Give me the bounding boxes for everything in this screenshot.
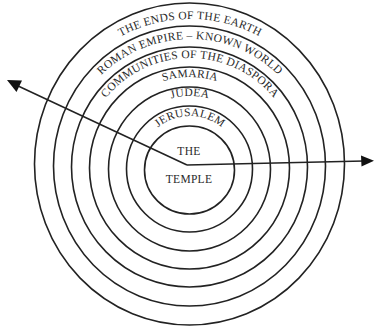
center-label-the: THE: [177, 145, 200, 157]
label-judea: JUDEA: [169, 86, 211, 101]
arrowhead-right-icon: [361, 156, 374, 167]
arrow-to-right: [187, 156, 374, 167]
center-label-temple: TEMPLE: [166, 173, 213, 185]
concentric-circle-diagram: JERUSALEM JUDEA SAMARIA COMMUNITIES OF T…: [0, 0, 377, 330]
ring-temple: [145, 126, 235, 214]
ring-jerusalem: [127, 106, 253, 232]
